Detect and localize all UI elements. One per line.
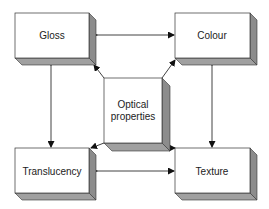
node-translucency: Translucency xyxy=(15,148,96,200)
node-gloss-label: Gloss xyxy=(39,30,65,41)
optical-properties-diagram: Gloss Colour Optical properties Transluc… xyxy=(0,0,269,209)
node-optical-properties: Optical properties xyxy=(104,78,170,151)
node-texture: Texture xyxy=(175,148,257,200)
node-texture-label: Texture xyxy=(196,166,229,177)
node-colour-label: Colour xyxy=(197,30,227,41)
arrow-center-colour xyxy=(162,60,175,78)
node-translucency-label: Translucency xyxy=(22,166,81,177)
node-colour: Colour xyxy=(175,13,257,65)
arrow-center-translucency xyxy=(91,143,104,148)
center-label-line2: properties xyxy=(111,111,155,122)
center-label-line1: Optical xyxy=(117,99,148,110)
arrow-center-gloss xyxy=(94,65,104,78)
node-gloss: Gloss xyxy=(15,13,96,65)
